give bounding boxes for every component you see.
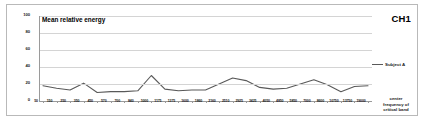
- x-tick-label-2160: 2160: [208, 99, 215, 103]
- x-tick-label-570: 570: [101, 99, 107, 103]
- x-tick-label-10750: 10750: [329, 99, 338, 103]
- x-tick-label-1375: 1375: [168, 99, 175, 103]
- x-axis-tick-labels: 5015025035045057070084010001175137516001…: [32, 99, 365, 107]
- y-tick-label-40: 40: [8, 64, 30, 68]
- x-tick-label-5850: 5850: [290, 99, 297, 103]
- gridline-60: [39, 50, 372, 51]
- x-tick-label-2925: 2925: [235, 99, 242, 103]
- y-tick-label-20: 20: [8, 81, 30, 85]
- x-tick-label-13750: 13750: [343, 99, 352, 103]
- x-tick-label-150: 150: [47, 99, 53, 103]
- x-tick-label-1600: 1600: [181, 99, 188, 103]
- x-tick-label-4850: 4850: [276, 99, 283, 103]
- x-tick-label-19000: 19000: [356, 99, 365, 103]
- y-axis-line: [39, 16, 40, 101]
- y-tick-label-100: 100: [8, 13, 30, 17]
- gridline-80: [39, 33, 372, 34]
- x-tick-label-2510: 2510: [222, 99, 229, 103]
- channel-label: CH1: [391, 14, 411, 24]
- legend-label-subject-a: Subject A: [385, 62, 405, 67]
- y-tick-label-60: 60: [8, 47, 30, 51]
- legend-swatch-subject-a: [372, 64, 383, 66]
- legend: Subject A: [372, 62, 405, 67]
- y-tick-label-80: 80: [8, 30, 30, 34]
- x-tick-label-8600: 8600: [317, 99, 324, 103]
- x-tick-label-450: 450: [87, 99, 93, 103]
- x-tick-label-250: 250: [60, 99, 66, 103]
- x-tick-label-3425: 3425: [249, 99, 256, 103]
- x-tick-label-1000: 1000: [141, 99, 148, 103]
- x-tick-label-1175: 1175: [154, 99, 161, 103]
- chart-title: Mean relative energy: [42, 16, 105, 23]
- x-axis-title: center frequency of critical band: [369, 96, 423, 113]
- x-tick-label-700: 700: [114, 99, 120, 103]
- x-tick-label-4050: 4050: [263, 99, 270, 103]
- plot-area: [39, 16, 372, 101]
- y-tick-label-0: 0: [8, 98, 30, 102]
- x-tick-label-350: 350: [74, 99, 80, 103]
- x-tick-label-1860: 1860: [195, 99, 202, 103]
- gridline-20: [39, 84, 372, 85]
- series-line-chart: [39, 16, 372, 101]
- x-tick-label-7000: 7000: [303, 99, 310, 103]
- x-axis-title-line-3: critical band: [369, 107, 423, 113]
- gridline-40: [39, 67, 372, 68]
- x-tick-label-50: 50: [34, 99, 38, 103]
- y-axis-tick-labels: 100806040200: [4, 0, 30, 127]
- x-tick-label-840: 840: [128, 99, 134, 103]
